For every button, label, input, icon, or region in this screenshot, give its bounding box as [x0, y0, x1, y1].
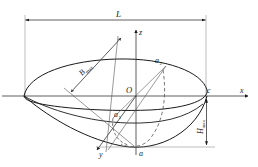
length-dimension-group: L: [25, 9, 206, 100]
hidden-section-group: [121, 70, 165, 147]
length-label: L: [115, 9, 121, 19]
point-a-label: a: [139, 149, 143, 158]
height-label-subscript: max: [201, 119, 206, 128]
point-a1-subscript: 1: [119, 115, 122, 120]
deck-ellipse-outline: [24, 59, 207, 110]
hull-diagram-svg: L x z y O: [0, 0, 258, 167]
y-axis-label: y: [98, 150, 103, 159]
oblique-line-left: [106, 36, 118, 152]
point-a2-subscript: 2: [160, 61, 163, 66]
beam-dimension-group: B max: [71, 38, 121, 92]
point-a1-label: a: [114, 110, 118, 119]
beam-dimension-line: [71, 38, 121, 92]
z-axis-label: z: [138, 28, 143, 37]
deck-ellipse-group: [24, 59, 207, 110]
x-axis-label: x: [239, 86, 244, 95]
oblique-line-a2: [108, 66, 166, 150]
beam-label-subscript: max: [85, 65, 95, 75]
point-c-label: c: [207, 86, 211, 95]
origin-label: O: [126, 85, 132, 95]
figure-container: L x z y O: [0, 0, 258, 167]
point-a2-label: a: [155, 56, 159, 65]
z-axis-group: z: [136, 28, 143, 155]
x-axis-group: x: [2, 86, 248, 96]
dashed-section-curve: [121, 70, 165, 147]
y-axis-group: y: [97, 96, 136, 159]
oblique-line-diagonal: [64, 88, 134, 146]
